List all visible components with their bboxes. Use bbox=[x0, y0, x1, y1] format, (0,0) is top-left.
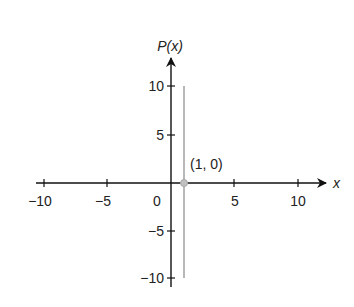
y-tick-label: −5 bbox=[148, 223, 164, 239]
point-1-0 bbox=[181, 180, 188, 187]
x-tick-label: −10 bbox=[28, 193, 52, 209]
x-tick-label: −5 bbox=[95, 193, 111, 209]
y-tick-label: −10 bbox=[140, 270, 164, 286]
x-axis-label: x bbox=[332, 175, 341, 191]
x-tick-label: 0 bbox=[153, 193, 161, 209]
y-axis-label: P(x) bbox=[157, 38, 183, 54]
x-tick-label: 10 bbox=[290, 193, 306, 209]
coordinate-plane: −10 −5 0 5 10 10 5 −5 −10 P(x) x (1, 0) bbox=[0, 0, 354, 307]
x-tick-label: 5 bbox=[231, 193, 239, 209]
y-tick-label: 5 bbox=[156, 127, 164, 143]
point-annotation: (1, 0) bbox=[190, 156, 223, 172]
y-tick-label: 10 bbox=[148, 78, 164, 94]
